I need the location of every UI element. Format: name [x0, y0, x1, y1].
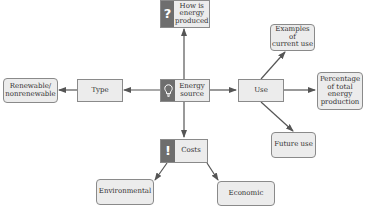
- node-how-energy-produced: ? How is energy produced: [160, 0, 210, 28]
- node-future-use: Future use: [271, 132, 316, 158]
- label-line: produced: [175, 18, 209, 26]
- label-line: source: [180, 91, 204, 99]
- node-label: Use: [254, 87, 268, 95]
- node-use: Use: [238, 79, 284, 102]
- edge-costs-to-economic: [207, 163, 218, 180]
- node-label: Environmental: [99, 188, 151, 196]
- edge-use-to-future: [261, 102, 293, 131]
- node-energy-source: Energy source: [160, 79, 210, 102]
- label-text: Costs: [181, 147, 201, 155]
- node-label: Economic: [229, 190, 264, 198]
- node-renewable-nonrenewable: Renewable/ nonrenewable: [3, 78, 58, 103]
- edge-use-to-examples: [261, 52, 285, 79]
- edge-costs-to-environmental: [155, 163, 167, 180]
- lightbulb-icon: [161, 80, 175, 101]
- node-label: Type: [91, 87, 108, 95]
- node-label: Energy source: [175, 83, 209, 98]
- node-label: Future use: [274, 141, 313, 149]
- node-environmental: Environmental: [96, 179, 154, 205]
- label-line: Examples of: [271, 26, 314, 41]
- node-type: Type: [77, 79, 123, 102]
- label-line: current use: [272, 41, 313, 49]
- node-label: Costs: [175, 147, 207, 155]
- node-costs: ! Costs: [160, 139, 208, 163]
- node-economic: Economic: [217, 181, 275, 206]
- label-line: production: [321, 99, 360, 107]
- node-label: How is energy produced: [174, 3, 210, 26]
- node-examples-current-use: Examples of current use: [270, 24, 315, 51]
- label-line: nonrenewable: [5, 91, 55, 99]
- question-mark-icon: ?: [161, 1, 174, 27]
- node-percentage-total-production: Percentage of total energy production: [317, 72, 363, 110]
- exclamation-icon: !: [161, 140, 175, 162]
